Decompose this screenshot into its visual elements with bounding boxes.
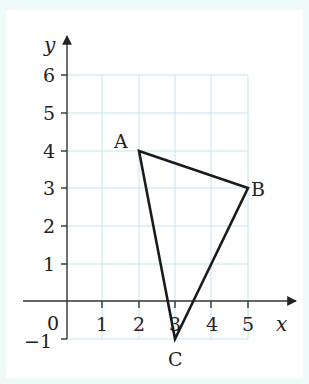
x-axis-label: x: [276, 312, 287, 336]
x-tick-label: 5: [242, 313, 254, 335]
y-tick-label: 5: [43, 102, 55, 124]
x-tick-label: 1: [96, 313, 108, 335]
y-tick-label: −1: [24, 330, 52, 352]
vertex-label-c: C: [168, 348, 183, 370]
grid: [67, 75, 248, 339]
y-tick-label: 3: [43, 177, 55, 199]
diagram-frame: y x 0 6 5 4 3 2 1 −1 1 2 3 4 5 A B C: [0, 0, 309, 384]
y-tick-label: 2: [43, 215, 55, 237]
vertex-label-b: B: [251, 178, 265, 200]
vertex-label-a: A: [113, 130, 128, 152]
y-tick-label: 4: [43, 140, 55, 162]
y-axis-label: y: [43, 33, 56, 57]
coordinate-plane: y x 0 6 5 4 3 2 1 −1 1 2 3 4 5 A B C: [0, 0, 309, 384]
x-tick-label: 2: [133, 313, 145, 335]
y-tick-label: 1: [43, 253, 55, 275]
x-tick-label: 4: [206, 313, 218, 335]
y-tick-label: 6: [43, 64, 55, 86]
triangle-abc: [139, 151, 248, 339]
